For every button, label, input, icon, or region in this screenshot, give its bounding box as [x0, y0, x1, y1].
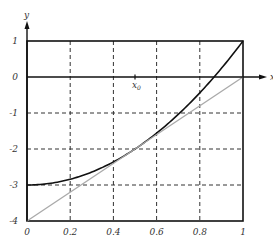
series-group	[27, 41, 243, 221]
x-axis-label: x	[270, 72, 273, 82]
y-tick-label: 0	[12, 72, 18, 82]
y-tick-label: -4	[9, 216, 18, 226]
x-tick-label: 0.4	[106, 227, 121, 237]
y-tick-label: 1	[12, 36, 18, 46]
x-tick-label: 0.2	[63, 227, 78, 237]
x-tick-label: 1	[240, 227, 246, 237]
x-tick-label: 0.6	[149, 227, 164, 237]
x-tick-label: 0	[24, 227, 30, 237]
y-axis-arrow	[25, 21, 30, 29]
tick-labels: xy00.20.40.60.8110-1-2-3-4x0	[9, 10, 273, 237]
grid	[27, 41, 243, 221]
y-tick-label: -2	[9, 144, 18, 154]
x-axis-arrow	[259, 75, 267, 80]
y-tick-label: -1	[9, 108, 18, 118]
chart: xy00.20.40.60.8110-1-2-3-4x0	[0, 0, 273, 247]
x0-annotation: x0	[132, 80, 141, 91]
x-tick-label: 0.8	[193, 227, 208, 237]
y-tick-label: -3	[9, 180, 18, 190]
axes	[25, 21, 268, 221]
plot-frame	[27, 41, 243, 221]
x0-subscript: 0	[137, 84, 141, 91]
plot-border	[27, 41, 243, 221]
y-axis-label: y	[23, 10, 30, 20]
